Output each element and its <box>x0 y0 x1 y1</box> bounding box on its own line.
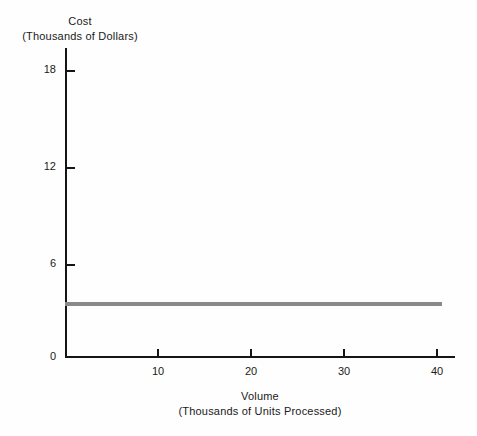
x-tick-mark <box>436 349 438 356</box>
y-tick-label: 0 <box>30 351 56 362</box>
y-tick-mark <box>67 70 75 72</box>
x-tick-label: 40 <box>417 366 457 377</box>
y-tick-mark <box>67 264 75 266</box>
cost-volume-chart: Cost (Thousands of Dollars) 18 12 6 0 10 <box>0 0 477 436</box>
x-tick-mark <box>343 349 345 356</box>
x-tick-mark <box>250 349 252 356</box>
x-tick-label: 10 <box>138 366 178 377</box>
y-tick-label: 6 <box>30 258 56 269</box>
x-tick-label: 30 <box>324 366 364 377</box>
y-tick-label: 12 <box>30 161 56 172</box>
plot-area: 18 12 6 0 10 20 30 40 <box>0 0 477 436</box>
x-tick-label: 20 <box>231 366 271 377</box>
y-axis-line <box>65 48 67 358</box>
y-tick-label: 18 <box>30 64 56 75</box>
x-axis-title-sub: (Thousands of Units Processed) <box>160 404 360 419</box>
x-axis-title: Volume (Thousands of Units Processed) <box>160 389 360 419</box>
series-fixed-cost-line <box>65 302 442 306</box>
y-tick-mark <box>67 167 75 169</box>
x-axis-title-main: Volume <box>160 389 360 404</box>
x-tick-mark <box>157 349 159 356</box>
x-axis-line <box>65 356 455 358</box>
